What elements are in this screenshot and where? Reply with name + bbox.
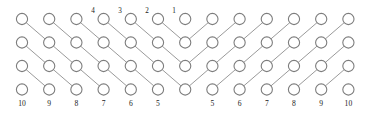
lattice-edge-down-left bbox=[189, 70, 208, 86]
lattice-edge-down-right bbox=[135, 70, 154, 86]
bottom-label-10: 10 bbox=[18, 99, 26, 108]
lattice-edge-down-left bbox=[189, 23, 208, 39]
lattice-node[interactable] bbox=[125, 60, 136, 71]
lattice-node[interactable] bbox=[288, 84, 299, 95]
lattice-node[interactable] bbox=[98, 37, 109, 48]
top-label-2: 2 bbox=[145, 7, 149, 15]
lattice-edge-down-left bbox=[325, 46, 344, 62]
lattice-edge-down-right bbox=[135, 46, 154, 62]
lattice-node[interactable] bbox=[152, 84, 163, 95]
lattice-node[interactable] bbox=[71, 13, 82, 24]
lattice-node[interactable] bbox=[234, 37, 245, 48]
lattice-node[interactable] bbox=[44, 60, 55, 71]
lattice-edge-down-left bbox=[217, 23, 236, 39]
lattice-edge-down-left bbox=[244, 23, 263, 39]
lattice-node[interactable] bbox=[207, 13, 218, 24]
bottom-label-8: 8 bbox=[75, 99, 79, 108]
lattice-node[interactable] bbox=[343, 60, 354, 71]
lattice-node[interactable] bbox=[44, 13, 55, 24]
lattice-node[interactable] bbox=[98, 84, 109, 95]
bottom-label-10: 10 bbox=[345, 99, 353, 108]
lattice-edge-down-left bbox=[244, 46, 263, 62]
lattice-node[interactable] bbox=[180, 13, 191, 24]
bottom-label-5: 5 bbox=[156, 99, 160, 108]
lattice-edge-down-left bbox=[271, 70, 290, 86]
lattice-node[interactable] bbox=[316, 13, 327, 24]
lattice-node[interactable] bbox=[16, 60, 27, 71]
lattice-node[interactable] bbox=[180, 37, 191, 48]
bottom-label-7: 7 bbox=[102, 99, 106, 108]
lattice-edge-down-right bbox=[162, 46, 181, 62]
lattice-canvas: 432110987655678910 bbox=[0, 0, 371, 117]
lattice-edge-down-left bbox=[217, 46, 236, 62]
lattice-edge-down-right bbox=[108, 46, 127, 62]
lattice-edge-down-left bbox=[271, 23, 290, 39]
lattice-edge-down-right bbox=[81, 46, 100, 62]
lattice-node[interactable] bbox=[234, 13, 245, 24]
lattice-node[interactable] bbox=[207, 37, 218, 48]
bottom-label-9: 9 bbox=[319, 99, 323, 108]
lattice-edge-down-right bbox=[135, 23, 154, 39]
lattice-node[interactable] bbox=[261, 13, 272, 24]
lattice-node[interactable] bbox=[343, 84, 354, 95]
lattice-node[interactable] bbox=[152, 13, 163, 24]
lattice-node[interactable] bbox=[234, 60, 245, 71]
lattice-node[interactable] bbox=[44, 84, 55, 95]
lattice-edge-down-left bbox=[298, 46, 317, 62]
lattice-node[interactable] bbox=[343, 37, 354, 48]
lattice-node[interactable] bbox=[207, 60, 218, 71]
lattice-node[interactable] bbox=[125, 37, 136, 48]
lattice-edge-down-left bbox=[325, 70, 344, 86]
lattice-node[interactable] bbox=[16, 84, 27, 95]
lattice-node[interactable] bbox=[288, 13, 299, 24]
bottom-label-6: 6 bbox=[129, 99, 133, 108]
lattice-node[interactable] bbox=[316, 84, 327, 95]
lattice-edge-down-right bbox=[26, 70, 45, 86]
lattice-node[interactable] bbox=[316, 37, 327, 48]
bottom-label-9: 9 bbox=[47, 99, 51, 108]
lattice-node[interactable] bbox=[16, 13, 27, 24]
bottom-label-6: 6 bbox=[238, 99, 242, 108]
lattice-edge-down-left bbox=[217, 70, 236, 86]
lattice-node[interactable] bbox=[261, 84, 272, 95]
lattice-node[interactable] bbox=[152, 60, 163, 71]
lattice-edge-down-right bbox=[162, 23, 181, 39]
lattice-node[interactable] bbox=[71, 37, 82, 48]
lattice-edge-down-left bbox=[189, 46, 208, 62]
lattice-diagram: 432110987655678910 bbox=[0, 0, 371, 117]
lattice-node[interactable] bbox=[288, 60, 299, 71]
lattice-edge-down-left bbox=[298, 23, 317, 39]
bottom-label-8: 8 bbox=[292, 99, 296, 108]
lattice-node[interactable] bbox=[261, 60, 272, 71]
top-label-3: 3 bbox=[118, 7, 122, 15]
lattice-node[interactable] bbox=[234, 84, 245, 95]
lattice-node[interactable] bbox=[180, 84, 191, 95]
lattice-edge-down-left bbox=[244, 70, 263, 86]
lattice-edge-down-left bbox=[325, 23, 344, 39]
lattice-edge-down-right bbox=[81, 70, 100, 86]
lattice-node[interactable] bbox=[125, 13, 136, 24]
lattice-edge-down-left bbox=[271, 46, 290, 62]
lattice-node[interactable] bbox=[288, 37, 299, 48]
lattice-node[interactable] bbox=[44, 37, 55, 48]
bottom-label-5: 5 bbox=[211, 99, 215, 108]
lattice-node[interactable] bbox=[125, 84, 136, 95]
lattice-node[interactable] bbox=[71, 60, 82, 71]
lattice-node[interactable] bbox=[16, 37, 27, 48]
lattice-node[interactable] bbox=[180, 60, 191, 71]
lattice-edge-down-right bbox=[26, 46, 45, 62]
lattice-node[interactable] bbox=[261, 37, 272, 48]
lattice-node[interactable] bbox=[152, 37, 163, 48]
lattice-edge-down-right bbox=[26, 23, 45, 39]
lattice-node[interactable] bbox=[316, 60, 327, 71]
lattice-node[interactable] bbox=[98, 60, 109, 71]
lattice-edge-down-right bbox=[53, 23, 72, 39]
lattice-node[interactable] bbox=[343, 13, 354, 24]
lattice-edge-down-right bbox=[53, 70, 72, 86]
lattice-node[interactable] bbox=[98, 13, 109, 24]
lattice-node[interactable] bbox=[71, 84, 82, 95]
bottom-label-7: 7 bbox=[265, 99, 269, 108]
lattice-edge-down-right bbox=[108, 70, 127, 86]
lattice-node[interactable] bbox=[207, 84, 218, 95]
nodes-layer bbox=[16, 13, 354, 95]
